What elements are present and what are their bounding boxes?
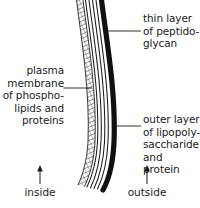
- diagram-canvas: thin layer of peptido- glycan plasma mem…: [0, 0, 200, 208]
- label-outer-layer-lipopolysaccharide: outer layer of lipopoly- saccharide and …: [143, 113, 200, 176]
- label-outside: outside: [116, 186, 178, 199]
- label-thin-layer-peptidoglycan: thin layer of peptido- glycan: [143, 12, 200, 50]
- label-inside: inside: [10, 186, 70, 199]
- inside-arrow: [37, 165, 43, 184]
- label-plasma-membrane: plasma membrane of phospho- lipids and p…: [0, 64, 64, 127]
